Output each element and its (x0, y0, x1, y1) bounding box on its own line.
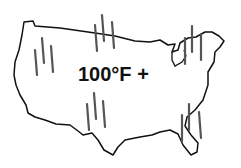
temperature-label: 100°F + (78, 63, 149, 86)
heat-map-illustration: 100°F + (0, 0, 241, 168)
